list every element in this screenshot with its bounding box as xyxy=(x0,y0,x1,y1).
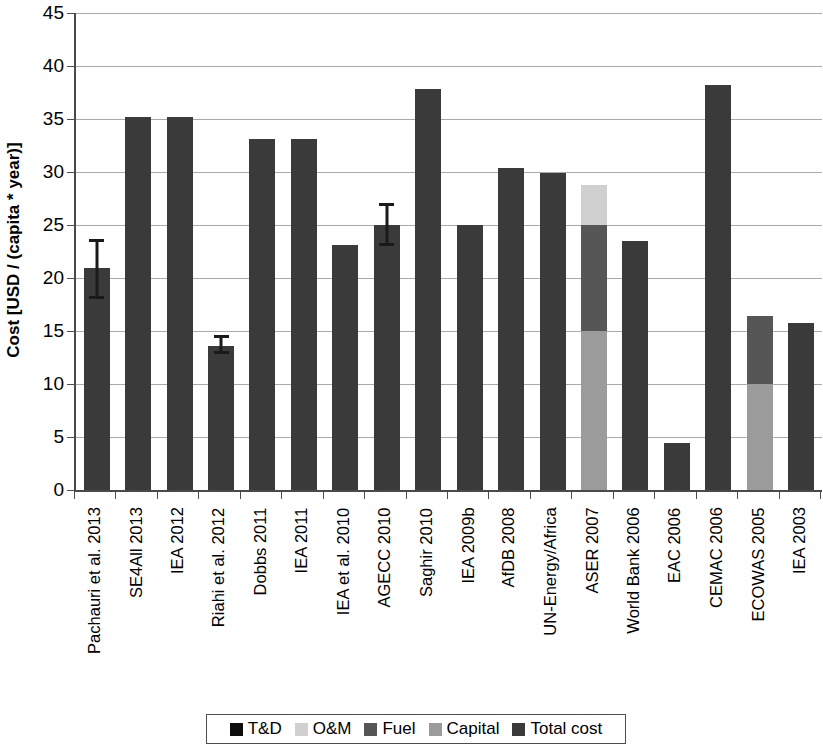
x-axis-tick-mark xyxy=(613,492,614,499)
bar-group[interactable] xyxy=(656,13,697,490)
bar-segment xyxy=(788,323,814,490)
bar-group[interactable] xyxy=(781,13,822,490)
legend-swatch xyxy=(364,723,377,736)
y-axis-tick-label: 25 xyxy=(43,214,64,236)
x-axis-tick-label: ASER 2007 xyxy=(571,502,612,688)
bar[interactable] xyxy=(208,346,234,490)
legend-label: Fuel xyxy=(382,719,415,739)
bar-group[interactable] xyxy=(325,13,366,490)
bar[interactable] xyxy=(374,225,400,490)
x-axis-tick-marks xyxy=(74,492,820,500)
x-axis-tick-label-text: CEMAC 2006 xyxy=(707,507,726,608)
bar-group[interactable] xyxy=(117,13,158,490)
legend-entry[interactable]: Fuel xyxy=(364,719,415,739)
x-axis-tick-mark xyxy=(406,492,407,499)
bar-segment xyxy=(581,331,607,490)
x-axis-tick-labels: Pachauri et al. 2013SE4All 2013IEA 2012R… xyxy=(74,502,820,690)
bar-segment xyxy=(374,225,400,490)
bar-group[interactable] xyxy=(242,13,283,490)
x-axis-tick-mark xyxy=(447,492,448,499)
y-axis-tick-label: 5 xyxy=(53,426,64,448)
bar-group[interactable] xyxy=(490,13,531,490)
bar-segment xyxy=(747,316,773,384)
x-axis-tick-label-text: EAC 2006 xyxy=(665,508,684,583)
bar[interactable] xyxy=(705,85,731,490)
x-axis-tick-label-text: Dobbs 2011 xyxy=(251,507,270,595)
legend-entry[interactable]: O&M xyxy=(295,719,352,739)
legend-entry[interactable]: Capital xyxy=(429,719,500,739)
bar[interactable] xyxy=(332,245,358,490)
legend-swatch xyxy=(295,723,308,736)
bar[interactable] xyxy=(167,117,193,490)
x-axis-tick-label-text: AfDB 2008 xyxy=(500,508,519,588)
x-axis-tick-label-text: IEA 2003 xyxy=(790,507,809,574)
legend-entry[interactable]: Total cost xyxy=(512,719,602,739)
bar[interactable] xyxy=(788,323,814,490)
bar-group[interactable] xyxy=(573,13,614,490)
legend-label: O&M xyxy=(313,719,352,739)
y-axis-tick-mark xyxy=(67,278,74,279)
bar-segment xyxy=(249,139,275,490)
x-axis-tick-label: AfDB 2008 xyxy=(488,502,529,688)
bar[interactable] xyxy=(747,316,773,490)
bar-group[interactable] xyxy=(532,13,573,490)
x-axis-tick-mark xyxy=(571,492,572,499)
error-bar-cap-bottom xyxy=(89,296,104,299)
bar[interactable] xyxy=(498,168,524,490)
bar-segment xyxy=(622,241,648,490)
x-axis-tick-label: ECOWAS 2005 xyxy=(737,502,778,688)
bar[interactable] xyxy=(415,89,441,490)
x-axis-tick-mark xyxy=(530,492,531,499)
bar-group[interactable] xyxy=(76,13,117,490)
bar[interactable] xyxy=(540,173,566,490)
x-axis-tick-mark xyxy=(240,492,241,499)
legend-label: Capital xyxy=(447,719,500,739)
x-axis-tick-mark xyxy=(198,492,199,499)
bar-segment xyxy=(457,225,483,490)
bar[interactable] xyxy=(622,241,648,490)
legend-entry[interactable]: T&D xyxy=(230,719,282,739)
bar-group[interactable] xyxy=(615,13,656,490)
bar-group[interactable] xyxy=(739,13,780,490)
legend-label: T&D xyxy=(248,719,282,739)
bar[interactable] xyxy=(125,117,151,490)
bar-segment xyxy=(747,384,773,490)
bar-segment xyxy=(415,89,441,490)
x-axis-tick-mark xyxy=(696,492,697,499)
x-axis-tick-label-text: IEA et al. 2010 xyxy=(334,508,353,615)
error-bar-line xyxy=(385,203,388,246)
x-axis-tick-label-text: IEA 2009b xyxy=(458,508,477,584)
x-axis-tick-mark xyxy=(74,492,75,499)
bar[interactable] xyxy=(457,225,483,490)
x-axis-tick-label-text: World Bank 2006 xyxy=(624,508,643,634)
legend-swatch xyxy=(230,723,243,736)
bar-group[interactable] xyxy=(366,13,407,490)
bar[interactable] xyxy=(581,185,607,490)
bar[interactable] xyxy=(84,268,110,490)
x-axis-tick-label-text: Saghir 2010 xyxy=(417,508,436,597)
bar-segment xyxy=(705,85,731,490)
bar-group[interactable] xyxy=(449,13,490,490)
bar-group[interactable] xyxy=(408,13,449,490)
bar[interactable] xyxy=(291,139,317,490)
bar-group[interactable] xyxy=(200,13,241,490)
bar-group[interactable] xyxy=(283,13,324,490)
x-axis-tick-label: Pachauri et al. 2013 xyxy=(74,502,115,688)
bar[interactable] xyxy=(249,139,275,490)
plot-wrapper: 051015202530354045 xyxy=(28,0,823,500)
bar-segment xyxy=(332,245,358,490)
error-bar-line xyxy=(95,239,98,299)
bar-group[interactable] xyxy=(698,13,739,490)
bar-group[interactable] xyxy=(159,13,200,490)
bar-segment xyxy=(540,173,566,490)
y-axis-title-text: Cost [USD / (capita * year)] xyxy=(4,142,24,357)
y-axis-tick-mark xyxy=(67,437,74,438)
error-bar-cap-top xyxy=(379,203,394,206)
x-axis-tick-label: Saghir 2010 xyxy=(406,502,447,688)
x-axis-tick-mark xyxy=(157,492,158,499)
x-axis-tick-mark xyxy=(281,492,282,499)
bar-chart: Cost [USD / (capita * year)] 05101520253… xyxy=(0,0,823,749)
x-axis-tick-label-text: ASER 2007 xyxy=(583,507,602,593)
bar[interactable] xyxy=(664,443,690,490)
x-axis-tick-mark xyxy=(323,492,324,499)
